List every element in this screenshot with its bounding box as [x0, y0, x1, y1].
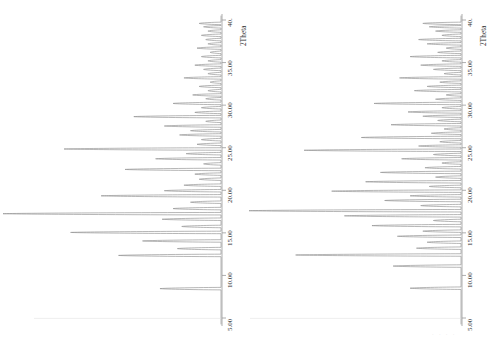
axis-tick-label: 25.00: [466, 145, 474, 161]
axis-tick-label: 20.00: [226, 188, 234, 204]
axis-tick-label: 5.00: [466, 319, 474, 331]
axis-tick-label: 20.00: [466, 188, 474, 204]
xrd-pattern-right-panel: 2Theta 5.0010.0015.0020.0025.0030.0035.0…: [248, 0, 495, 346]
axis-title-2theta-right: 2Theta: [480, 25, 488, 46]
axis-tick-label: 25.00: [226, 145, 234, 161]
axis-tick-label: 5.00: [226, 319, 234, 331]
axis-tick-label: 35.00: [466, 60, 474, 76]
axis-tick-label: 40.: [226, 18, 234, 27]
axis-tick-label: 30.00: [226, 102, 234, 118]
xrd-plot-left: [0, 0, 248, 346]
axis-tick-label: 35.00: [226, 60, 234, 76]
axis-tick-label: 10.00: [466, 273, 474, 289]
scan-artifact: · · · ·: [432, 332, 456, 337]
figure-canvas: 2Theta 5.0010.0015.0020.0025.0030.0035.0…: [0, 0, 495, 346]
xrd-pattern-left-panel: 2Theta 5.0010.0015.0020.0025.0030.0035.0…: [0, 0, 248, 346]
axis-tick-label: 10.00: [226, 273, 234, 289]
axis-tick-label: 30.00: [466, 102, 474, 118]
xrd-plot-right: [248, 0, 495, 346]
axis-tick-label: 40.: [466, 18, 474, 27]
axis-title-2theta-left: 2Theta: [240, 25, 248, 46]
axis-tick-label: 15.00: [466, 230, 474, 246]
axis-tick-label: 15.00: [226, 230, 234, 246]
